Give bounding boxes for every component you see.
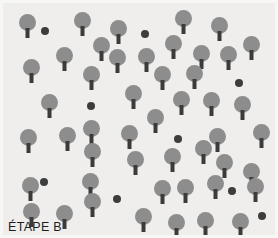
tree-trunk-icon — [217, 31, 221, 41]
tree-symbol — [121, 125, 138, 152]
tree-symbol — [147, 109, 164, 136]
figure-root: ÉTAPE B — [0, 0, 278, 238]
tree-trunk-icon — [141, 222, 145, 232]
stump-marker-icon — [141, 30, 149, 38]
stump-marker-icon — [40, 178, 48, 186]
tree-trunk-icon — [160, 80, 164, 90]
tree-trunk-icon — [99, 51, 103, 61]
tree-symbol — [168, 214, 185, 235]
tree-trunk-icon — [115, 63, 119, 73]
tree-symbol — [195, 140, 212, 167]
tree-trunk-icon — [89, 80, 93, 90]
tree-trunk-icon — [160, 194, 164, 204]
tree-trunk-icon — [90, 207, 94, 217]
tree-trunk-icon — [28, 191, 32, 201]
tree-symbol — [165, 35, 182, 62]
tree-symbol — [247, 178, 264, 205]
tree-symbol — [220, 46, 237, 73]
tree-symbol — [84, 193, 101, 220]
tree-trunk-icon — [171, 49, 175, 59]
tree-trunk-icon — [29, 73, 33, 83]
stump-marker-icon — [228, 187, 236, 195]
tree-symbol — [74, 12, 91, 39]
tree-trunk-icon — [133, 165, 137, 175]
tree-symbol — [154, 66, 171, 93]
stand-map-plot-area — [3, 3, 275, 235]
tree-symbol — [177, 179, 194, 206]
tree-trunk-icon — [116, 34, 120, 44]
tree-symbol — [253, 124, 270, 151]
tree-symbol — [138, 48, 155, 75]
stump-marker-icon — [258, 212, 266, 220]
stump-marker-icon — [87, 102, 95, 110]
tree-trunk-icon — [181, 24, 185, 34]
tree-trunk-icon — [253, 192, 257, 202]
tree-symbol — [164, 148, 181, 175]
tree-symbol — [93, 37, 110, 64]
stump-marker-icon — [113, 195, 121, 203]
tree-trunk-icon — [47, 108, 51, 118]
tree-trunk-icon — [62, 61, 66, 71]
tree-symbol — [19, 14, 36, 41]
tree-symbol — [127, 151, 144, 178]
tree-trunk-icon — [80, 26, 84, 36]
tree-symbol — [110, 20, 127, 47]
tree-symbol — [197, 212, 214, 235]
tree-trunk-icon — [238, 227, 242, 235]
tree-symbol — [84, 143, 101, 170]
stump-marker-icon — [235, 79, 243, 87]
tree-trunk-icon — [65, 141, 69, 151]
tree-symbol — [59, 127, 76, 154]
tree-trunk-icon — [203, 226, 207, 235]
tree-symbol — [154, 180, 171, 207]
tree-trunk-icon — [249, 50, 253, 60]
tree-symbol — [109, 49, 126, 76]
tree-trunk-icon — [144, 62, 148, 72]
tree-trunk-icon — [179, 105, 183, 115]
tree-trunk-icon — [62, 219, 66, 229]
tree-trunk-icon — [153, 123, 157, 133]
tree-trunk-icon — [90, 157, 94, 167]
tree-trunk-icon — [25, 28, 29, 38]
tree-symbol — [125, 85, 142, 112]
tree-symbol — [207, 175, 224, 202]
tree-trunk-icon — [226, 60, 230, 70]
tree-trunk-icon — [213, 189, 217, 199]
tree-trunk-icon — [174, 228, 178, 235]
tree-trunk-icon — [127, 139, 131, 149]
tree-symbol — [83, 66, 100, 93]
tree-symbol — [211, 17, 228, 44]
stage-caption: ÉTAPE B — [8, 220, 62, 235]
stump-marker-icon — [41, 27, 49, 35]
tree-trunk-icon — [170, 162, 174, 172]
tree-symbol — [186, 65, 203, 92]
tree-symbol — [23, 59, 40, 86]
tree-trunk-icon — [192, 79, 196, 89]
tree-trunk-icon — [131, 99, 135, 109]
tree-symbol — [243, 36, 260, 63]
tree-symbol — [203, 92, 220, 119]
tree-trunk-icon — [240, 110, 244, 120]
tree-trunk-icon — [201, 154, 205, 164]
tree-trunk-icon — [26, 143, 30, 153]
tree-symbol — [56, 47, 73, 74]
tree-symbol — [232, 213, 249, 235]
tree-trunk-icon — [259, 138, 263, 148]
tree-trunk-icon — [183, 193, 187, 203]
tree-symbol — [234, 96, 251, 123]
tree-trunk-icon — [209, 106, 213, 116]
tree-symbol — [22, 177, 39, 204]
tree-symbol — [135, 208, 152, 235]
tree-symbol — [20, 129, 37, 156]
tree-symbol — [175, 10, 192, 37]
tree-trunk-icon — [215, 142, 219, 152]
tree-symbol — [41, 94, 58, 121]
stump-marker-icon — [174, 135, 182, 143]
tree-symbol — [173, 91, 190, 118]
